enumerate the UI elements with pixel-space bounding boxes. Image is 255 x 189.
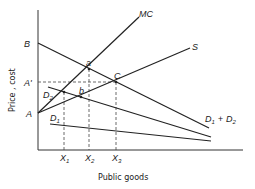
label-d1: D1 [50, 113, 60, 124]
label-A-prime: A' [23, 78, 32, 88]
label-A: A [25, 109, 32, 119]
label-mc: MC [139, 9, 153, 19]
label-c: C [114, 71, 121, 81]
label-b: b [79, 86, 84, 96]
label-d2: D2 [43, 90, 54, 101]
label-a: a [86, 58, 91, 68]
point-c [115, 81, 118, 84]
d2-curve [48, 87, 211, 137]
x-axis-title: Public goods [98, 173, 148, 182]
y-axis-title: Price , cost [8, 68, 17, 112]
sum-demand-curve [38, 43, 209, 128]
label-B: B [24, 39, 30, 49]
point-d2 [63, 91, 66, 94]
d1-curve [50, 124, 211, 141]
tick-x1: X1 [59, 153, 69, 164]
tick-x2: X2 [84, 153, 95, 164]
label-s: S [192, 42, 198, 52]
tick-x3: X3 [111, 153, 122, 164]
point-a [88, 68, 91, 71]
label-d1-plus-d2: D1+D2 [205, 114, 237, 125]
point-b [80, 96, 83, 99]
public-goods-diagram: MC S B A' A a C b D2 D1 D1+D2 X1 X2 X3 P… [0, 0, 255, 189]
